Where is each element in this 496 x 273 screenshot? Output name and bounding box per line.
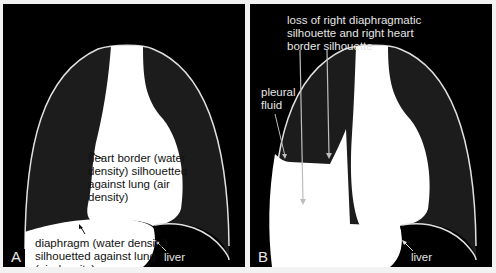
panel-b-pleural-effusion: loss of right diaphragmatic silhouette a…: [250, 4, 492, 267]
panel-a-normal-chest: heart border (water density) silhouetted…: [3, 4, 245, 267]
label-liver-b: liver: [411, 251, 432, 264]
label-pleural-fluid: pleural fluid: [261, 86, 296, 112]
label-loss-of-silhouette: loss of right diaphragmatic silhouette a…: [287, 14, 421, 53]
label-diaphragm: diaphragm (water density) silhouetted ag…: [35, 237, 168, 267]
panel-letter-b: B: [258, 248, 268, 265]
label-heart-border: heart border (water density) silhouetted…: [88, 152, 187, 204]
chest-diagram-a: [3, 4, 245, 267]
label-liver-a: liver: [164, 251, 185, 264]
panel-letter-a: A: [11, 248, 21, 265]
